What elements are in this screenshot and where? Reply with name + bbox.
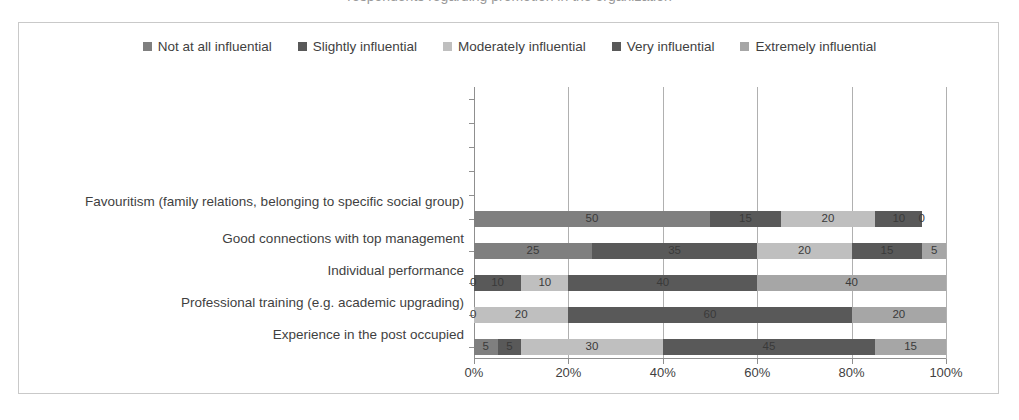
- bar-segment[interactable]: 10: [474, 275, 521, 291]
- bar-segment[interactable]: 45: [663, 339, 875, 355]
- bar-value-label: 10: [892, 213, 905, 225]
- y-axis-tick: [469, 147, 474, 148]
- bar-segment[interactable]: 30: [521, 339, 663, 355]
- bar-value-label: 5: [931, 245, 937, 257]
- gridline: [946, 87, 947, 359]
- legend-item[interactable]: Not at all influential: [143, 39, 272, 54]
- category-label: Individual performance: [44, 262, 464, 279]
- bar-segment[interactable]: 5: [498, 339, 522, 355]
- x-axis-tick: [946, 359, 947, 364]
- legend-item-label: Slightly influential: [313, 39, 417, 54]
- legend-item[interactable]: Very influential: [612, 39, 715, 54]
- x-axis-tick-label: 20%: [555, 365, 581, 380]
- bar-value-label: 10: [491, 277, 504, 289]
- legend-swatch-icon: [740, 42, 749, 51]
- bar-value-label: 20: [515, 309, 528, 321]
- bar-segment[interactable]: 20: [474, 307, 568, 323]
- x-axis-tick: [663, 359, 664, 364]
- y-axis-tick: [469, 171, 474, 172]
- y-axis-tick: [469, 195, 474, 196]
- legend-swatch-icon: [612, 42, 621, 51]
- legend-item[interactable]: Extremely influential: [740, 39, 876, 54]
- category-label: Good connections with top management: [44, 230, 464, 247]
- legend-item[interactable]: Slightly influential: [298, 39, 417, 54]
- bar-value-label: 25: [527, 245, 540, 257]
- bar-value-label: 0: [918, 213, 924, 225]
- legend-item-label: Very influential: [627, 39, 715, 54]
- x-axis-line: [474, 358, 946, 359]
- y-axis-tick: [469, 99, 474, 100]
- legend-swatch-icon: [443, 42, 452, 51]
- bar-segment[interactable]: 50: [474, 211, 710, 227]
- bar-segment[interactable]: 20: [852, 307, 946, 323]
- legend-item-label: Moderately influential: [458, 39, 586, 54]
- x-axis-tick: [474, 359, 475, 364]
- bar-value-label: 20: [798, 245, 811, 257]
- bar-row[interactable]: 501520100: [474, 211, 922, 227]
- bar-value-label: 5: [483, 341, 489, 353]
- bar-segment[interactable]: 15: [875, 339, 946, 355]
- bar-row[interactable]: 0206020: [474, 307, 946, 323]
- bar-row[interactable]: 55304515: [474, 339, 946, 355]
- x-axis-tick-label: 0%: [465, 365, 484, 380]
- bar-value-label: 20: [892, 309, 905, 321]
- bar-value-label: 15: [881, 245, 894, 257]
- legend-swatch-icon: [298, 42, 307, 51]
- bar-value-label: 40: [656, 277, 669, 289]
- bar-segment[interactable]: 15: [852, 243, 923, 259]
- bar-value-label: 0: [470, 309, 476, 321]
- category-label: Experience in the post occupied: [44, 326, 464, 343]
- bar-segment[interactable]: 5: [474, 339, 498, 355]
- y-axis-tick: [469, 123, 474, 124]
- bar-value-label: 60: [704, 309, 717, 321]
- x-axis-tick: [568, 359, 569, 364]
- x-axis-tick-label: 100%: [929, 365, 962, 380]
- bar-value-label: 20: [822, 213, 835, 225]
- bar-value-label: 10: [538, 277, 551, 289]
- x-axis-tick: [852, 359, 853, 364]
- bar-segment[interactable]: 25: [474, 243, 592, 259]
- bar-row[interactable]: 253520155: [474, 243, 946, 259]
- legend-swatch-icon: [143, 42, 152, 51]
- bar-value-label: 30: [586, 341, 599, 353]
- x-axis-tick-labels: 0%20%40%60%80%100%: [474, 365, 946, 387]
- x-axis-tick-label: 40%: [650, 365, 676, 380]
- bar-segment[interactable]: 20: [757, 243, 851, 259]
- clipped-title-area: respondents regarding promotion in the o…: [0, 0, 1019, 20]
- bar-segment[interactable]: 15: [710, 211, 781, 227]
- bar-segment[interactable]: 40: [568, 275, 757, 291]
- x-axis-tick: [757, 359, 758, 364]
- plot-region: 5015201002535201550101040400206020553045…: [474, 87, 946, 359]
- bar-segment[interactable]: 5: [922, 243, 946, 259]
- bar-value-label: 15: [904, 341, 917, 353]
- bar-value-label: 35: [668, 245, 681, 257]
- bar-value-label: 15: [739, 213, 752, 225]
- legend-item[interactable]: Moderately influential: [443, 39, 586, 54]
- bar-value-label: 0: [470, 277, 476, 289]
- bar-value-label: 45: [763, 341, 776, 353]
- legend-item-label: Not at all influential: [158, 39, 272, 54]
- bar-segment[interactable]: 20: [781, 211, 875, 227]
- bar-value-label: 40: [845, 277, 858, 289]
- category-label: Professional training (e.g. academic upg…: [44, 294, 464, 311]
- bar-segment[interactable]: 10: [875, 211, 922, 227]
- x-axis-tick-label: 60%: [744, 365, 770, 380]
- clipped-title-text: respondents regarding promotion in the o…: [347, 0, 672, 4]
- legend-item-label: Extremely influential: [755, 39, 876, 54]
- bar-row[interactable]: 010104040: [474, 275, 946, 291]
- category-label: Favouritism (family relations, belonging…: [44, 193, 464, 210]
- bar-value-label: 5: [506, 341, 512, 353]
- x-axis-tick-label: 80%: [839, 365, 865, 380]
- bar-value-label: 50: [586, 213, 599, 225]
- chart-legend: Not at all influentialSlightly influenti…: [19, 39, 1000, 54]
- bar-segment[interactable]: 40: [757, 275, 946, 291]
- bar-segment[interactable]: 10: [521, 275, 568, 291]
- bar-segment[interactable]: 60: [568, 307, 851, 323]
- plot-area: 5015201002535201550101040400206020553045…: [474, 87, 946, 359]
- chart-frame: Not at all influentialSlightly influenti…: [18, 22, 999, 394]
- bar-segment[interactable]: 35: [592, 243, 757, 259]
